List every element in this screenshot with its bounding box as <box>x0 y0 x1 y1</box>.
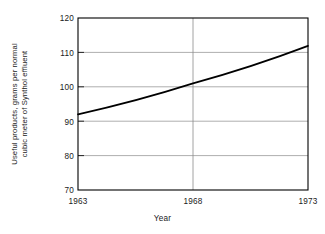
x-axis-title: Year <box>0 214 325 223</box>
x-tick-label-1968: 1968 <box>168 198 218 206</box>
x-tick-label-1963: 1963 <box>53 198 103 206</box>
x-tick-label-1973: 1973 <box>283 198 325 206</box>
line-chart: Useful products, grams per normal cubic … <box>0 0 325 234</box>
x-axis-tick-labels: 1963 1968 1973 <box>0 0 325 234</box>
